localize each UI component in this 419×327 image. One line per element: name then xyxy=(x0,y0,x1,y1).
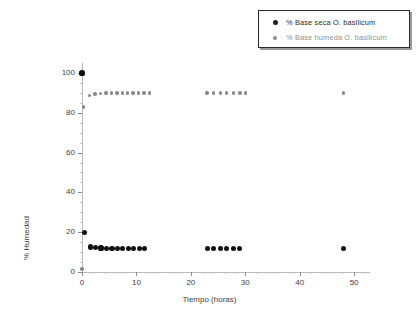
x-axis-minor-tick xyxy=(321,272,322,274)
data-point-base-seca xyxy=(224,246,229,251)
data-point-base-seca xyxy=(211,246,216,251)
data-point-base-seca xyxy=(79,70,84,75)
y-axis-minor-tick xyxy=(80,202,82,203)
x-axis-minor-tick xyxy=(365,272,366,274)
y-axis-minor-tick xyxy=(80,123,82,124)
legend-label-base-seca: % Base seca O. basilicum xyxy=(286,18,375,27)
data-point-base-seca xyxy=(137,246,142,251)
data-point-base-humeda xyxy=(121,91,124,94)
data-point-base-seca xyxy=(109,246,114,251)
x-axis-tick xyxy=(136,272,137,276)
x-axis-title: Tiempo (horas) xyxy=(0,295,419,304)
plot-area: 02040608010001020304050 xyxy=(82,65,365,272)
data-point-base-humeda xyxy=(137,91,140,94)
x-axis-minor-tick xyxy=(169,272,170,274)
data-point-base-humeda xyxy=(219,91,222,94)
x-axis-minor-tick xyxy=(256,272,257,274)
y-axis-title-wrap: % Humedad xyxy=(24,140,25,141)
y-axis-minor-tick xyxy=(80,252,82,253)
x-axis-tick xyxy=(300,272,301,276)
y-axis-minor-tick xyxy=(80,93,82,94)
data-point-base-humeda xyxy=(110,91,113,94)
data-point-base-humeda xyxy=(126,91,129,94)
x-axis-minor-tick xyxy=(311,272,312,274)
y-axis-tick-label: 40 xyxy=(45,187,75,196)
y-axis-minor-tick xyxy=(80,163,82,164)
circle-marker-icon xyxy=(273,20,278,25)
y-axis-minor-tick xyxy=(80,182,82,183)
x-axis-tick-label: 20 xyxy=(176,278,206,287)
y-axis-tick xyxy=(78,113,82,114)
y-axis-minor-tick xyxy=(80,242,82,243)
x-axis-minor-tick xyxy=(158,272,159,274)
x-axis-minor-tick xyxy=(213,272,214,274)
x-axis-tick xyxy=(354,272,355,276)
circle-marker-icon xyxy=(273,36,277,40)
data-point-base-humeda xyxy=(205,91,208,94)
data-point-base-seca xyxy=(126,246,131,251)
chart-figure: % Base seca O. basilicum % Base humeda O… xyxy=(0,0,419,327)
y-axis-tick xyxy=(78,153,82,154)
y-axis-minor-tick xyxy=(80,222,82,223)
data-point-base-humeda xyxy=(82,105,85,108)
x-axis-tick xyxy=(191,272,192,276)
y-axis-minor-tick xyxy=(80,133,82,134)
data-point-base-humeda xyxy=(225,91,228,94)
chart-legend: % Base seca O. basilicum % Base humeda O… xyxy=(258,10,410,48)
x-axis-tick-label: 10 xyxy=(121,278,151,287)
x-axis-tick-label: 0 xyxy=(67,278,97,287)
x-axis-minor-tick xyxy=(332,272,333,274)
data-point-base-humeda xyxy=(104,91,107,94)
data-point-base-seca xyxy=(98,245,103,250)
data-point-base-seca xyxy=(205,246,210,251)
data-point-base-humeda xyxy=(93,92,96,95)
legend-label-base-humeda: % Base humeda O. basilicum xyxy=(286,33,387,42)
x-axis-minor-tick xyxy=(202,272,203,274)
data-point-base-seca xyxy=(131,246,136,251)
x-axis-minor-tick xyxy=(93,272,94,274)
x-axis-minor-tick xyxy=(180,272,181,274)
data-point-base-seca xyxy=(218,246,223,251)
x-axis-minor-tick xyxy=(289,272,290,274)
data-point-base-humeda xyxy=(238,91,241,94)
data-point-base-seca xyxy=(120,246,125,251)
data-point-base-seca xyxy=(142,246,147,251)
data-point-base-seca xyxy=(115,246,120,251)
x-axis-minor-tick xyxy=(115,272,116,274)
data-point-base-humeda xyxy=(131,91,134,94)
data-point-base-seca xyxy=(82,230,87,235)
data-point-base-seca xyxy=(88,244,93,249)
y-axis-tick-label: 80 xyxy=(45,108,75,117)
x-axis-tick xyxy=(82,272,83,276)
y-axis-minor-tick xyxy=(80,172,82,173)
y-axis-tick-label: 100 xyxy=(45,68,75,77)
data-point-base-seca xyxy=(237,246,242,251)
x-axis-minor-tick xyxy=(147,272,148,274)
x-axis-tick-label: 50 xyxy=(339,278,369,287)
data-point-base-humeda xyxy=(212,91,215,94)
x-axis-minor-tick xyxy=(126,272,127,274)
data-point-base-humeda xyxy=(115,91,118,94)
data-point-base-humeda xyxy=(244,91,247,94)
y-axis-title: % Humedad xyxy=(22,216,31,260)
data-point-base-humeda xyxy=(142,91,145,94)
data-point-base-humeda xyxy=(342,91,345,94)
data-point-base-humeda xyxy=(80,267,83,270)
data-point-base-seca xyxy=(341,246,346,251)
x-axis-tick-label: 40 xyxy=(285,278,315,287)
data-point-base-humeda xyxy=(148,91,151,94)
y-axis-tick xyxy=(78,192,82,193)
data-point-base-humeda xyxy=(88,94,91,97)
data-point-base-humeda xyxy=(99,92,102,95)
data-point-base-humeda xyxy=(232,91,235,94)
x-axis-minor-tick xyxy=(234,272,235,274)
x-axis-spine xyxy=(81,272,370,273)
x-axis-tick-label: 30 xyxy=(230,278,260,287)
y-axis-tick-label: 20 xyxy=(45,227,75,236)
y-axis-minor-tick xyxy=(80,83,82,84)
x-axis-tick xyxy=(245,272,246,276)
y-axis-tick-label: 60 xyxy=(45,148,75,157)
legend-marker-base-humeda xyxy=(264,36,286,40)
y-axis-minor-tick xyxy=(80,262,82,263)
x-axis-minor-tick xyxy=(104,272,105,274)
